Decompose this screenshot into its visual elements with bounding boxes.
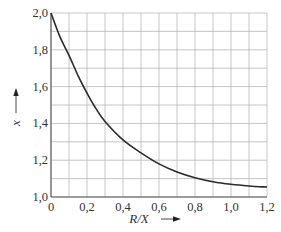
x-tick-label: 1,0 (223, 200, 239, 214)
y-tick-label: 1,8 (32, 43, 48, 57)
x-tick-label: 0 (48, 200, 54, 214)
y-tick-label: 1,6 (32, 80, 48, 94)
x-tick-label: 0,8 (187, 200, 203, 214)
x-tick-labels: 00,20,40,60,81,01,2 (48, 200, 275, 214)
y-tick-label: 2,0 (32, 6, 48, 20)
up-arrow-head-icon (13, 88, 18, 96)
grid-lines (51, 13, 267, 197)
right-arrow-head-icon (173, 216, 181, 221)
y-axis-label: x (8, 120, 23, 127)
y-tick-label: 1,4 (32, 116, 48, 130)
chart: 1,01,21,41,61,82,0 00,20,40,60,81,01,2 x… (0, 0, 281, 232)
y-tick-label: 1,0 (32, 190, 48, 204)
y-axis-label-group: x (8, 88, 23, 127)
x-tick-label: 0,6 (151, 200, 167, 214)
x-tick-label: 0,2 (79, 200, 95, 214)
x-tick-label: 1,2 (259, 200, 275, 214)
x-axis-label: R/X (128, 211, 150, 226)
y-tick-labels: 1,01,21,41,61,82,0 (32, 6, 48, 204)
y-tick-label: 1,2 (32, 153, 48, 167)
